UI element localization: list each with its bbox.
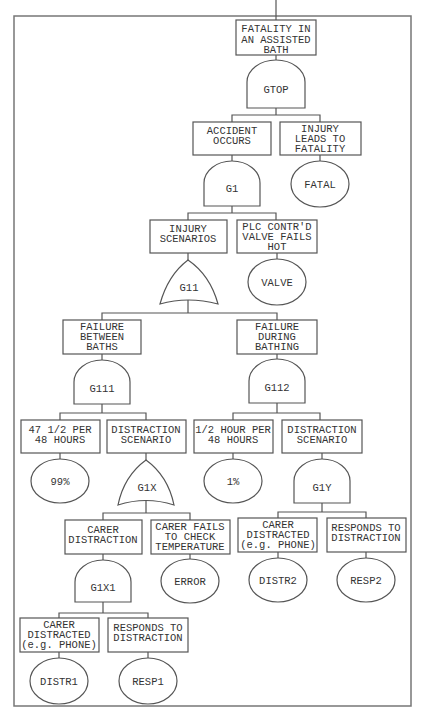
event-distraction-scenario-x: DISTRACTION SCENARIO: [107, 420, 186, 453]
event-top: FATALITY IN AN ASSISTED BATH: [236, 20, 316, 56]
event-carer-distracted-y: CARER DISTRACTED (e.g. PHONE): [238, 518, 317, 552]
svg-text:SCENARIO: SCENARIO: [297, 434, 347, 446]
basic-valve: VALVE: [248, 259, 306, 305]
basic-fatal: FATAL: [291, 161, 349, 207]
gate-g11-or: G11: [160, 260, 218, 304]
event-accident-occurs: ACCIDENT OCCURS: [193, 122, 271, 155]
svg-text:DISTRACTION: DISTRACTION: [68, 534, 137, 546]
svg-text:DISTR1: DISTR1: [40, 676, 78, 688]
gate-g1y-and: G1Y: [294, 459, 350, 503]
event-injury-scenarios: INJURY SCENARIOS: [150, 220, 227, 253]
basic-99-percent: 99%: [31, 459, 89, 503]
event-distraction-scenario-y: DISTRACTION SCENARIO: [282, 420, 362, 453]
gate-g1-and: G1: [204, 161, 260, 206]
svg-text:G1X: G1X: [138, 482, 158, 494]
basic-1-percent: 1%: [204, 459, 262, 503]
svg-text:G112: G112: [264, 382, 289, 394]
svg-text:RESP2: RESP2: [350, 575, 382, 587]
svg-text:FATALITY: FATALITY: [295, 143, 346, 155]
svg-text:DISTRACTION: DISTRACTION: [113, 632, 182, 644]
basic-distr1: DISTR1: [30, 658, 88, 704]
svg-text:(e.g. PHONE): (e.g. PHONE): [21, 639, 97, 651]
svg-text:G11: G11: [180, 282, 199, 294]
event-47-half-per-48-hours: 47 1/2 PER 48 HOURS: [21, 420, 100, 453]
event-carer-fails-to-check-temperature: CARER FAILS TO CHECK TEMPERATURE: [151, 520, 230, 554]
svg-text:BATHS: BATHS: [86, 341, 118, 353]
svg-text:G111: G111: [89, 383, 114, 395]
event-injury-leads-to-fatality: INJURY LEADS TO FATALITY: [280, 122, 361, 155]
svg-text:48 HOURS: 48 HOURS: [35, 434, 85, 446]
event-plc-valve-fails-hot: PLC CONTR'D VALVE FAILS HOT: [237, 220, 317, 253]
svg-text:OCCURS: OCCURS: [213, 135, 251, 147]
event-carer-distracted-x: CARER DISTRACTED (e.g. PHONE): [20, 618, 99, 652]
event-responds-to-distraction-x: RESPONDS TO DISTRACTION: [108, 618, 188, 652]
event-failure-between-baths: FAILURE BETWEEN BATHS: [63, 320, 141, 354]
svg-text:RESP1: RESP1: [132, 676, 164, 688]
svg-text:FATAL: FATAL: [304, 179, 336, 191]
svg-text:G1X1: G1X1: [90, 582, 115, 594]
svg-text:DISTR2: DISTR2: [259, 575, 297, 587]
svg-text:TEMPERATURE: TEMPERATURE: [155, 541, 224, 553]
svg-text:DISTRACTION: DISTRACTION: [331, 532, 400, 544]
gate-g1x1-and: G1X1: [75, 560, 131, 602]
svg-text:G1Y: G1Y: [313, 482, 333, 494]
basic-distr2: DISTR2: [249, 558, 307, 602]
svg-text:VALVE: VALVE: [261, 277, 293, 289]
event-half-hour-per-48-hours: 1/2 HOUR PER 48 HOURS: [194, 420, 273, 453]
diagram-frame: [14, 16, 411, 706]
event-failure-during-bathing: FAILURE DURING BATHING: [237, 320, 317, 354]
svg-text:SCENARIOS: SCENARIOS: [160, 233, 217, 245]
basic-resp1: RESP1: [119, 658, 177, 704]
svg-text:99%: 99%: [51, 476, 71, 488]
svg-text:BATHING: BATHING: [255, 341, 299, 353]
svg-text:48 HOURS: 48 HOURS: [208, 434, 258, 446]
basic-resp2: RESP2: [337, 558, 395, 602]
event-carer-distraction: CARER DISTRACTION: [65, 520, 142, 554]
svg-text:(e.g. PHONE): (e.g. PHONE): [240, 539, 316, 551]
event-responds-to-distraction-y: RESPONDS TO DISTRACTION: [327, 518, 406, 552]
svg-text:GTOP: GTOP: [263, 84, 288, 96]
svg-text:BATH: BATH: [263, 44, 288, 56]
gate-gtop-and: GTOP: [247, 60, 305, 108]
svg-text:HOT: HOT: [268, 241, 287, 253]
fault-tree-diagram: FATALITY IN AN ASSISTED BATH GTOP ACCIDE…: [0, 0, 425, 721]
gate-g112-and: G112: [249, 359, 305, 403]
basic-error: ERROR: [161, 559, 219, 603]
svg-text:ERROR: ERROR: [174, 576, 206, 588]
svg-text:SCENARIO: SCENARIO: [121, 434, 171, 446]
svg-text:1%: 1%: [227, 476, 240, 488]
gate-g111-and: G111: [74, 360, 130, 404]
svg-text:G1: G1: [226, 183, 239, 195]
gate-g1x-or: G1X: [118, 460, 174, 505]
